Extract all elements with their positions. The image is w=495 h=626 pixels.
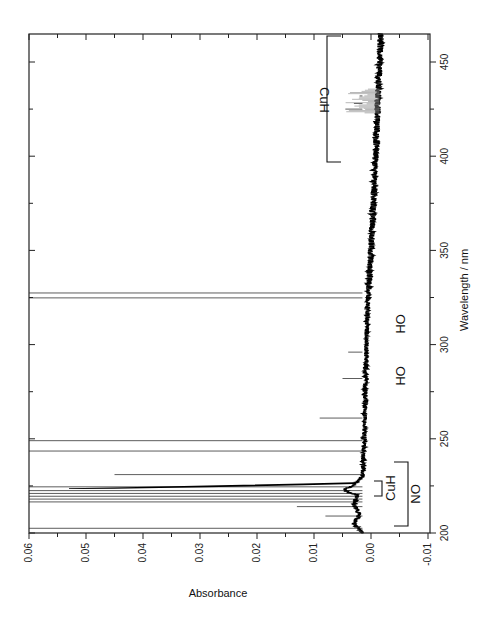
y-tick-label: 0.05 <box>80 543 91 563</box>
cuh-large-label: CuH <box>317 87 332 113</box>
y-tick-label: 0.04 <box>137 543 148 563</box>
x-tick-label: 450 <box>439 53 450 70</box>
y-tick-label: -0.01 <box>422 543 433 566</box>
oh-label-1: OH <box>393 366 408 386</box>
cuh-small-bracket <box>374 481 382 496</box>
no-label: NO <box>408 484 423 504</box>
y-tick-label: 0.02 <box>251 543 262 563</box>
y-tick-label: 0.01 <box>308 543 319 563</box>
y-tick-label: 0.06 <box>23 543 34 563</box>
y-tick-label: 0.03 <box>194 543 205 563</box>
x-tick-label: 200 <box>439 524 450 541</box>
x-tick-label: 250 <box>439 430 450 447</box>
absorbance-spectrum-chart: 200250300350400450 0.060.050.040.030.020… <box>0 0 495 626</box>
y-axis-title: Absorbance <box>189 587 248 599</box>
wavelength-axis: 200250300350400450 <box>29 53 450 541</box>
oh-label-2: OH <box>393 314 408 334</box>
y-tick-label: 0.00 <box>365 543 376 563</box>
cuh-small-label: CuH <box>383 475 398 501</box>
x-axis-title: Wavelength / nm <box>458 249 470 331</box>
x-tick-label: 350 <box>439 242 450 259</box>
broad-band <box>69 482 354 489</box>
x-tick-label: 300 <box>439 336 450 353</box>
x-tick-label: 400 <box>439 147 450 164</box>
